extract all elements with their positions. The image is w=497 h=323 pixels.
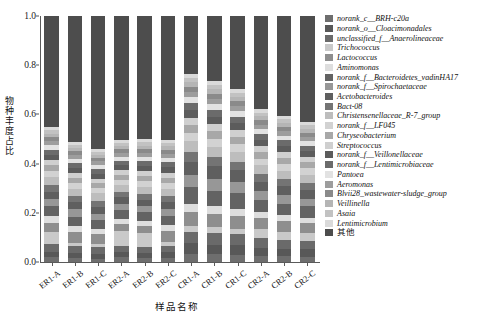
legend-item[interactable]: unclassified_f__Anaerolineaceae bbox=[325, 33, 497, 42]
bar-segment[interactable] bbox=[184, 175, 198, 187]
bar-segment[interactable] bbox=[161, 189, 175, 197]
bar-segment[interactable] bbox=[207, 166, 221, 179]
bar-segment[interactable] bbox=[230, 123, 244, 130]
bar-segment[interactable] bbox=[230, 182, 244, 193]
bar-segment[interactable] bbox=[277, 240, 291, 249]
bar-segment[interactable] bbox=[254, 191, 268, 200]
bar-segment[interactable] bbox=[230, 209, 244, 216]
bar-segment[interactable] bbox=[44, 16, 58, 127]
bar-segment[interactable] bbox=[230, 245, 244, 255]
legend-item[interactable]: Chryseobacterium bbox=[325, 131, 497, 140]
bar-segment[interactable] bbox=[68, 189, 82, 197]
legend-item[interactable]: Lactococcus bbox=[325, 53, 497, 62]
bar-segment[interactable] bbox=[300, 16, 314, 122]
bar-segment[interactable] bbox=[137, 258, 151, 262]
legend-item[interactable]: Acetobacteroides bbox=[325, 92, 497, 101]
bar-segment[interactable] bbox=[254, 256, 268, 262]
bar-segment[interactable] bbox=[277, 171, 291, 180]
bar-segment[interactable] bbox=[207, 233, 221, 245]
bar-segment[interactable] bbox=[207, 179, 221, 191]
bar-segment[interactable] bbox=[300, 223, 314, 233]
bar-segment[interactable] bbox=[207, 214, 221, 227]
legend-item[interactable]: Aminomonas bbox=[325, 63, 497, 72]
bar-segment[interactable] bbox=[161, 209, 175, 216]
bar-segment[interactable] bbox=[161, 216, 175, 225]
bar-segment[interactable] bbox=[254, 165, 268, 174]
bar-column[interactable] bbox=[230, 16, 244, 262]
legend-item[interactable]: Veillinella bbox=[325, 199, 497, 208]
bar-segment[interactable] bbox=[91, 220, 105, 229]
bar-segment[interactable] bbox=[254, 16, 268, 109]
bar-column[interactable] bbox=[300, 16, 314, 262]
bar-column[interactable] bbox=[207, 16, 221, 262]
legend-item[interactable]: norank_c__BRH-c20a bbox=[325, 14, 497, 23]
bar-segment[interactable] bbox=[91, 247, 105, 254]
bar-segment[interactable] bbox=[277, 16, 291, 115]
bar-segment[interactable] bbox=[161, 258, 175, 262]
legend-item[interactable]: Blvii28_wastewater-sludge_group bbox=[325, 189, 497, 198]
bar-segment[interactable] bbox=[230, 234, 244, 245]
bar-segment[interactable] bbox=[91, 16, 105, 149]
bar-column[interactable] bbox=[114, 16, 128, 262]
bar-segment[interactable] bbox=[161, 16, 175, 140]
bar-segment[interactable] bbox=[300, 199, 314, 207]
bar-segment[interactable] bbox=[114, 16, 128, 140]
bar-segment[interactable] bbox=[207, 117, 221, 125]
bar-segment[interactable] bbox=[91, 207, 105, 214]
bar-segment[interactable] bbox=[91, 234, 105, 244]
bar-segment[interactable] bbox=[184, 110, 198, 118]
bar-segment[interactable] bbox=[230, 170, 244, 182]
bar-segment[interactable] bbox=[114, 185, 128, 192]
bar-segment[interactable] bbox=[300, 206, 314, 217]
bar-segment[interactable] bbox=[184, 141, 198, 152]
stacked-bar[interactable] bbox=[254, 16, 268, 262]
bar-segment[interactable] bbox=[207, 254, 221, 262]
bar-segment[interactable] bbox=[277, 256, 291, 262]
bar-segment[interactable] bbox=[277, 179, 291, 186]
bar-segment[interactable] bbox=[68, 258, 82, 262]
bar-segment[interactable] bbox=[44, 199, 58, 206]
bar-segment[interactable] bbox=[184, 243, 198, 253]
bar-segment[interactable] bbox=[254, 218, 268, 229]
bar-column[interactable] bbox=[137, 16, 151, 262]
bar-segment[interactable] bbox=[68, 232, 82, 243]
bar-segment[interactable] bbox=[277, 204, 291, 216]
bar-segment[interactable] bbox=[137, 187, 151, 194]
bar-segment[interactable] bbox=[254, 174, 268, 181]
stacked-bar[interactable] bbox=[277, 16, 291, 262]
stacked-bar[interactable] bbox=[91, 16, 105, 262]
legend-item[interactable]: norank_f__Spirochaetaceae bbox=[325, 82, 497, 91]
legend-item[interactable]: Pantoea bbox=[325, 170, 497, 179]
bar-segment[interactable] bbox=[207, 16, 221, 81]
bar-segment[interactable] bbox=[207, 124, 221, 131]
legend-item[interactable]: 其他 bbox=[325, 228, 497, 237]
bar-segment[interactable] bbox=[300, 257, 314, 262]
bar-segment[interactable] bbox=[277, 195, 291, 203]
bar-column[interactable] bbox=[44, 16, 58, 262]
bar-segment[interactable] bbox=[254, 159, 268, 166]
bar-segment[interactable] bbox=[277, 232, 291, 240]
legend-item[interactable]: norank_f__Veillonellaceae bbox=[325, 150, 497, 159]
bar-segment[interactable] bbox=[254, 238, 268, 248]
stacked-bar[interactable] bbox=[207, 16, 221, 262]
stacked-bar[interactable] bbox=[161, 16, 175, 262]
stacked-bar[interactable] bbox=[300, 16, 314, 262]
legend-item[interactable]: Asaia bbox=[325, 209, 497, 218]
bar-segment[interactable] bbox=[207, 131, 221, 138]
bar-segment[interactable] bbox=[114, 257, 128, 262]
legend-item[interactable]: norank_f__LF045 bbox=[325, 121, 497, 130]
bar-segment[interactable] bbox=[230, 152, 244, 162]
bar-segment[interactable] bbox=[230, 255, 244, 262]
bar-segment[interactable] bbox=[91, 259, 105, 262]
bar-segment[interactable] bbox=[207, 157, 221, 166]
bar-segment[interactable] bbox=[137, 212, 151, 220]
bar-segment[interactable] bbox=[300, 175, 314, 183]
bar-segment[interactable] bbox=[68, 217, 82, 226]
bar-segment[interactable] bbox=[184, 133, 198, 141]
bar-segment[interactable] bbox=[114, 231, 128, 246]
bar-segment[interactable] bbox=[230, 216, 244, 230]
bar-segment[interactable] bbox=[184, 152, 198, 162]
bar-segment[interactable] bbox=[68, 209, 82, 216]
stacked-bar[interactable] bbox=[44, 16, 58, 262]
bar-segment[interactable] bbox=[68, 202, 82, 209]
